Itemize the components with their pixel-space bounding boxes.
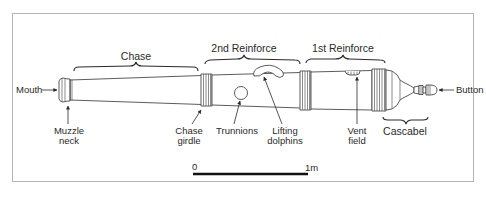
second-reinforce-label: 2nd Reinforce <box>211 42 277 54</box>
second-reinforce-tube <box>212 73 301 109</box>
chase-girdle-arrow <box>192 110 201 124</box>
trunnions-label: Trunnions <box>216 125 258 136</box>
first-reinforce-brace <box>306 55 385 63</box>
muzzle-neck-label-line2: neck <box>59 135 79 146</box>
cannon-barrel <box>59 65 437 111</box>
chase-girdle-label-line2: girdle <box>177 135 200 146</box>
first-reinforce-label: 1st Reinforce <box>312 42 374 54</box>
second-reinforce-brace <box>205 55 300 64</box>
scale-end-label: 1m <box>305 162 318 173</box>
vent-field-label-line2: field <box>348 135 365 146</box>
muzzle-swell <box>59 78 70 102</box>
breech-rings <box>372 69 386 111</box>
chase-brace <box>74 62 198 71</box>
scale-bar: 0 1m <box>192 161 318 174</box>
cascabel-label: Cascabel <box>383 125 427 137</box>
cascabel-neck <box>414 86 419 94</box>
scale-start-label: 0 <box>192 161 197 172</box>
lifting-dolphins-label-line2: dolphins <box>267 135 303 146</box>
chase-label: Chase <box>121 50 152 62</box>
cascabel-brace <box>383 117 428 124</box>
mouth-label: Mouth <box>16 84 42 95</box>
vent-field <box>345 71 360 75</box>
first-reinforce-tube <box>311 71 372 111</box>
chase-tube <box>70 76 202 105</box>
button-label: Button <box>456 84 483 95</box>
cannon-diagram: Chase 2nd Reinforce 1st Reinforce Cascab… <box>0 0 486 201</box>
trunnion <box>235 87 248 100</box>
